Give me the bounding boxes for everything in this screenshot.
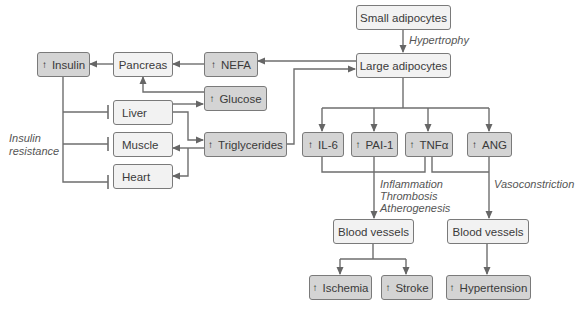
increase-arrow-icon: ↑	[208, 139, 213, 150]
increase-arrow-icon: ↑	[450, 282, 455, 293]
annotation-thrombosis: Thrombosis	[380, 190, 437, 203]
annotation-hypertrophy: Hypertrophy	[409, 34, 469, 47]
node-il6: ↑ IL-6	[302, 132, 344, 157]
node-label: Insulin	[52, 59, 85, 71]
node-nefa: ↑ NEFA	[204, 52, 258, 77]
insulin-resistance-trunk	[63, 76, 108, 182]
arrow-liver-to-triglycerides	[172, 112, 203, 140]
node-label: Heart	[122, 171, 150, 183]
node-label: Hypertension	[460, 282, 528, 294]
annotation-insulin-resistance-line2: resistance	[9, 145, 59, 158]
node-label: Blood vessels	[453, 226, 524, 238]
node-label: Glucose	[219, 93, 261, 105]
adipocyte-pathway-diagram: Small adipocytes Large adipocytes ↑ Insu…	[0, 0, 576, 311]
node-label: Small adipocytes	[360, 12, 447, 24]
node-label: NEFA	[221, 59, 251, 71]
node-small-adipocytes: Small adipocytes	[356, 5, 451, 30]
node-tnfa: ↑ TNFα	[405, 132, 453, 157]
increase-arrow-icon: ↑	[472, 139, 477, 150]
node-label: Ischemia	[322, 282, 368, 294]
annotation-vasoconstriction: Vasoconstriction	[494, 178, 574, 191]
node-hypertension: ↑ Hypertension	[446, 275, 531, 300]
node-label: Blood vessels	[338, 226, 409, 238]
increase-arrow-icon: ↑	[308, 139, 313, 150]
arrow-tg-to-heart	[173, 148, 188, 176]
node-ang: ↑ ANG	[467, 132, 512, 157]
annotation-atherogenesis: Atherogenesis	[380, 202, 450, 215]
node-insulin: ↑ Insulin	[37, 52, 90, 77]
annotation-inflammation: Inflammation	[380, 178, 443, 191]
node-stroke: ↑ Stroke	[381, 275, 433, 300]
increase-arrow-icon: ↑	[211, 59, 216, 70]
node-label: Triglycerides	[218, 139, 283, 151]
node-liver: Liver	[113, 100, 173, 125]
node-muscle: Muscle	[113, 132, 173, 157]
increase-arrow-icon: ↑	[409, 139, 414, 150]
node-label: Muscle	[122, 139, 158, 151]
node-blood-vessels-left: Blood vessels	[333, 219, 414, 244]
node-label: Liver	[122, 107, 147, 119]
annotation-insulin-resistance-line1: Insulin	[9, 132, 41, 145]
increase-arrow-icon: ↑	[356, 139, 361, 150]
node-large-adipocytes: Large adipocytes	[356, 53, 451, 78]
node-pai1: ↑ PAI-1	[351, 132, 398, 157]
node-glucose: ↑ Glucose	[204, 86, 267, 111]
node-pancreas: Pancreas	[113, 52, 173, 77]
node-label: ANG	[482, 139, 507, 151]
increase-arrow-icon: ↑	[42, 59, 47, 70]
increase-arrow-icon: ↑	[209, 93, 214, 104]
node-label: Large adipocytes	[360, 60, 448, 72]
node-label: TNFα	[419, 139, 448, 151]
node-ischemia: ↑ Ischemia	[309, 275, 372, 300]
node-label: PAI-1	[366, 139, 394, 151]
node-triglycerides: ↑ Triglycerides	[204, 132, 287, 157]
node-blood-vessels-right: Blood vessels	[447, 219, 529, 244]
increase-arrow-icon: ↑	[385, 282, 390, 293]
node-label: Pancreas	[119, 59, 168, 71]
increase-arrow-icon: ↑	[312, 282, 317, 293]
node-heart: Heart	[113, 164, 173, 189]
arrow-glucose-to-pancreas	[143, 77, 204, 92]
node-label: IL-6	[318, 139, 338, 151]
node-label: Stroke	[395, 282, 428, 294]
